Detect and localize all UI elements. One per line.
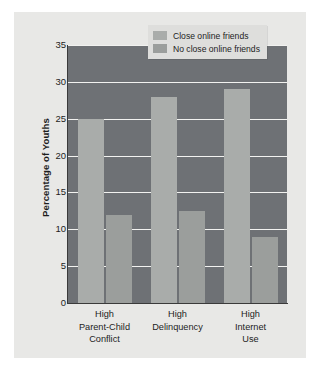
x-axis-label-line: Parent-Child xyxy=(68,321,141,334)
x-axis-label-line: Delinquency xyxy=(141,321,214,334)
legend-entry: No close online friends xyxy=(153,42,260,55)
chart-figure-card: Percentage of Youths 05101520253035 Clos… xyxy=(14,12,306,358)
x-axis-label-line: High xyxy=(141,308,214,321)
y-axis-tick-label: 20 xyxy=(42,151,66,161)
bar-group xyxy=(214,45,287,303)
y-axis-tick-labels: 05101520253035 xyxy=(42,45,66,303)
x-axis-label-line: Use xyxy=(214,333,287,346)
x-axis-line xyxy=(67,303,288,304)
legend-label: Close online friends xyxy=(173,31,248,41)
y-axis-tick-label: 30 xyxy=(42,77,66,87)
legend-swatch-no-close-online-friends xyxy=(153,44,167,53)
legend-label: No close online friends xyxy=(173,44,260,54)
bar-group xyxy=(141,45,214,303)
y-axis-tick-label: 5 xyxy=(42,261,66,271)
y-axis-tick-label: 25 xyxy=(42,114,66,124)
y-axis-tick-label: 10 xyxy=(42,224,66,234)
x-axis-category-label: HighInternetUse xyxy=(214,308,287,346)
bar-group xyxy=(68,45,141,303)
x-axis-category-label: HighParent-ChildConflict xyxy=(68,308,141,346)
plot-area xyxy=(68,45,287,303)
y-axis-tick-label: 35 xyxy=(42,40,66,50)
bar xyxy=(106,215,132,303)
x-axis-label-line: High xyxy=(68,308,141,321)
bar xyxy=(224,89,250,303)
bar xyxy=(179,211,205,303)
y-axis-tick-label: 15 xyxy=(42,187,66,197)
y-axis-line xyxy=(67,45,68,304)
x-axis-category-labels: HighParent-ChildConflictHighDelinquencyH… xyxy=(68,308,287,356)
x-axis-category-label: HighDelinquency xyxy=(141,308,214,333)
chart-legend: Close online friendsNo close online frie… xyxy=(148,25,267,59)
bars-layer xyxy=(68,45,287,303)
x-axis-label-line: Internet xyxy=(214,321,287,334)
legend-entry: Close online friends xyxy=(153,29,260,42)
bar xyxy=(252,237,278,303)
x-axis-label-line: Conflict xyxy=(68,333,141,346)
bar xyxy=(151,97,177,303)
bar xyxy=(78,119,104,303)
y-axis-tick-label: 0 xyxy=(42,298,66,308)
x-axis-label-line: High xyxy=(214,308,287,321)
legend-swatch-close-online-friends xyxy=(153,31,167,40)
